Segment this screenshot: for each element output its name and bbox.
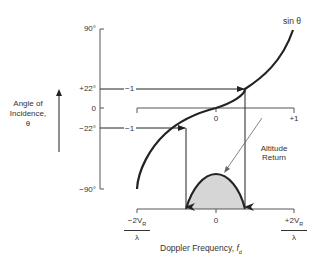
y-axis-title-line2: Incidence, [2, 109, 54, 118]
mapping-label-upper: −1 [125, 84, 134, 93]
annotation-line2: Return [252, 153, 296, 162]
doppler-diagram: sin θ Angle of Incidence, θ 90° +22° 0 −… [0, 0, 319, 263]
x-axis-title: Doppler Frequency, fd [160, 244, 242, 257]
y-axis-title-line3: θ [2, 119, 54, 128]
curve-label: sin θ [283, 17, 301, 26]
altitude-return-lobe [186, 174, 245, 209]
annotation-line1: Altitude [252, 144, 296, 153]
diagram-graphics [0, 0, 319, 263]
x-tick-right: +2VR λ [281, 216, 307, 242]
y-tick-90: 90° [62, 24, 96, 33]
x-tick-center: 0 [210, 216, 222, 225]
angle-direction-arrow [56, 89, 62, 152]
mid-axis-tick-plus1: +1 [286, 114, 302, 123]
doppler-frequency-axis [137, 209, 294, 213]
y-tick-0: 0 [62, 104, 96, 113]
mapping-label-lower: −1 [125, 124, 134, 133]
y-tick-minus90: −90° [62, 185, 96, 194]
y-tick-plus22: +22° [62, 84, 96, 93]
y-axis-title-line1: Angle of [2, 99, 54, 108]
mid-axis-tick-0: 0 [210, 114, 222, 123]
x-tick-left: −2VR λ [124, 216, 150, 242]
sine-curve [137, 30, 293, 189]
angle-axis [100, 29, 104, 189]
y-tick-minus22: −22° [62, 124, 96, 133]
